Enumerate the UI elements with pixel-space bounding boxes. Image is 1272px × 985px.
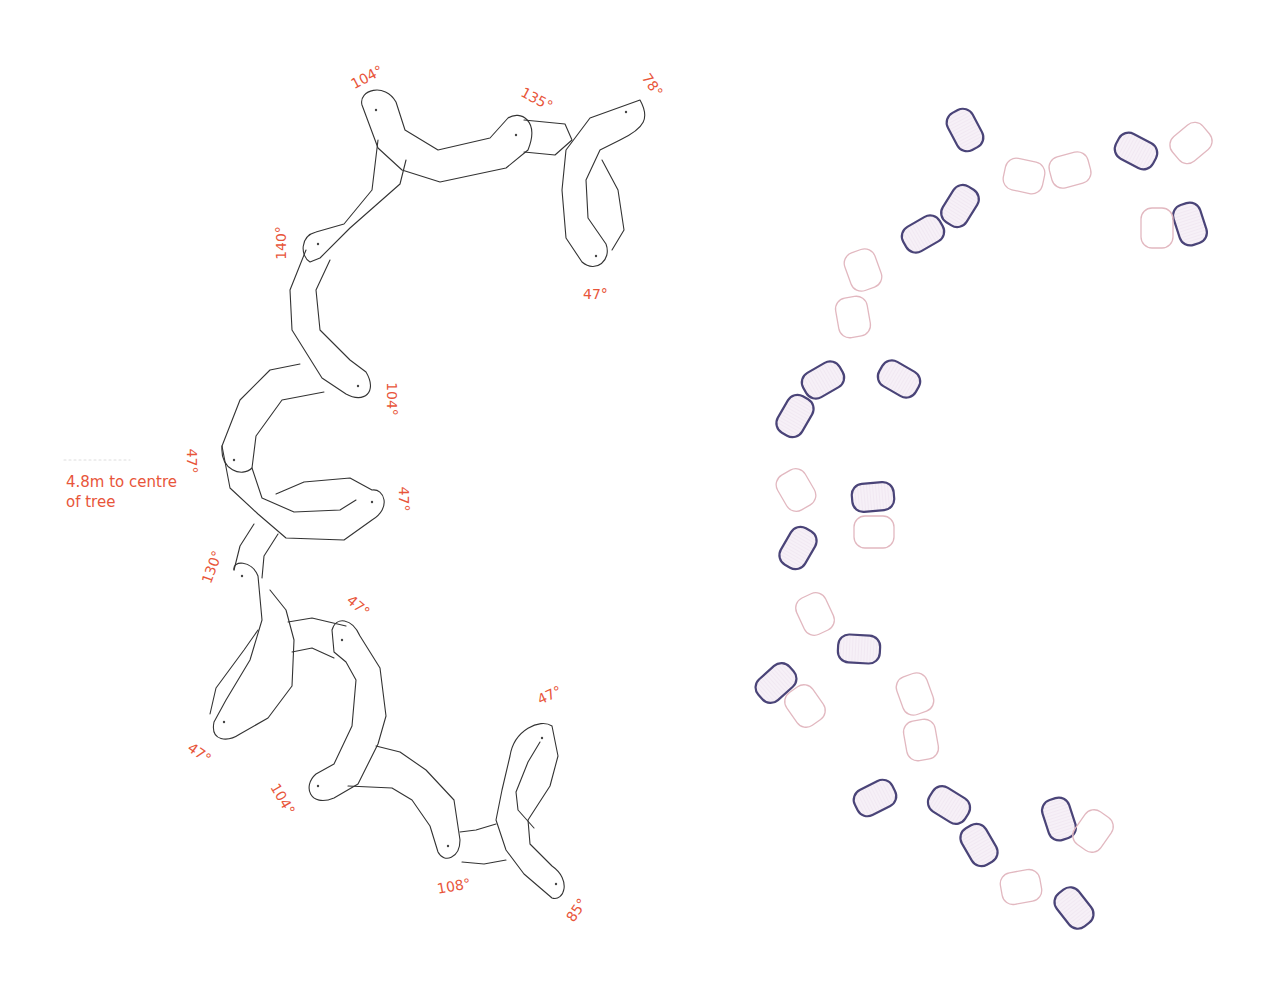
light-block [1141, 208, 1173, 248]
light-block [999, 868, 1044, 906]
light-block [1001, 156, 1047, 196]
dark-block [874, 356, 924, 401]
bench-segment-inner [210, 630, 258, 714]
light-block [841, 246, 885, 295]
light-block-group [772, 118, 1216, 906]
dark-block [1170, 200, 1210, 249]
angle-label: 104° [384, 382, 400, 416]
diagram-canvas [0, 0, 1272, 985]
light-block [902, 718, 940, 763]
dark-block [956, 820, 1001, 870]
dark-block [1050, 883, 1098, 933]
light-block [1047, 149, 1094, 190]
bench-segment [222, 364, 324, 472]
angle-label: 47° [396, 487, 412, 512]
tree-distance-note: 4.8m to centre of tree [66, 472, 177, 512]
light-block [1165, 118, 1216, 168]
tree-distance-line-1: 4.8m to centre [66, 472, 177, 492]
dark-block [851, 481, 895, 513]
dark-block [751, 659, 801, 708]
angle-label: 47° [184, 449, 200, 474]
dark-block [943, 105, 987, 155]
dark-block [924, 782, 974, 828]
bench-segment-inner [602, 160, 624, 250]
block-plan [751, 105, 1217, 933]
angle-label: 140° [273, 226, 289, 260]
bench-segment-inner [252, 468, 356, 512]
bench-segment [562, 100, 645, 267]
bench-link [234, 524, 278, 578]
angle-label: 47° [583, 286, 608, 302]
dark-block [1111, 129, 1161, 173]
bench-segment-inner [516, 742, 540, 828]
bench-segment [222, 446, 384, 540]
light-block [834, 295, 872, 340]
dark-block [898, 211, 948, 256]
bench-segment [362, 90, 532, 182]
dark-block [937, 181, 983, 231]
dark-block [798, 357, 848, 402]
bench-segment [213, 563, 294, 739]
light-block [854, 516, 894, 548]
bench-segment [290, 250, 370, 398]
bench-segment [309, 621, 386, 801]
light-block [772, 465, 820, 516]
dark-block [837, 634, 880, 664]
light-block [792, 589, 838, 639]
dark-block [775, 523, 820, 573]
bench-segment [496, 724, 564, 899]
light-block [893, 670, 937, 719]
bench-segment [348, 746, 460, 858]
tree-distance-line-2: of tree [66, 492, 177, 512]
bench-link [288, 618, 346, 658]
dark-block [850, 776, 900, 820]
